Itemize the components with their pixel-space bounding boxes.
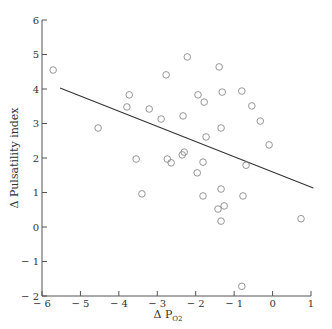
x-tick-label: − 2 <box>187 298 205 309</box>
y-tick-label: − 1 <box>21 256 39 267</box>
x-tick-label: − 6 <box>33 298 51 309</box>
data-point <box>221 203 228 210</box>
data-points <box>50 54 304 290</box>
data-point <box>239 283 246 290</box>
y-axis-title: Δ Pulsatility index <box>8 107 21 209</box>
x-axis: − 6− 5− 4− 3− 2− 101 <box>33 291 314 309</box>
x-tick-label: 0 <box>269 298 275 309</box>
data-point <box>139 191 146 198</box>
data-point <box>215 206 222 213</box>
data-point <box>219 89 226 96</box>
data-point <box>163 72 170 79</box>
data-point <box>133 156 140 163</box>
y-tick-label: 3 <box>33 118 39 129</box>
data-point <box>50 67 57 74</box>
scatter-chart: − 2− 10123456 − 6− 5− 4− 3− 2− 101 Δ Pul… <box>0 0 332 329</box>
data-point <box>164 156 171 163</box>
regression-line-segment <box>60 88 313 188</box>
data-point <box>158 116 165 123</box>
data-point <box>200 159 207 166</box>
x-tick-label: − 4 <box>110 298 128 309</box>
data-point <box>168 160 175 167</box>
x-tick-label: − 1 <box>225 298 243 309</box>
data-point <box>124 104 131 111</box>
y-tick-label: 1 <box>33 187 39 198</box>
data-point <box>146 106 153 113</box>
x-tick-label: − 5 <box>71 298 89 309</box>
data-point <box>218 186 225 193</box>
data-point <box>126 92 133 99</box>
y-tick-label: 2 <box>33 153 39 164</box>
data-point <box>266 142 273 149</box>
data-point <box>240 193 247 200</box>
y-tick-label: 0 <box>33 222 39 233</box>
data-point <box>195 92 202 99</box>
regression-line <box>60 88 313 188</box>
data-point <box>184 54 191 61</box>
data-point <box>239 88 246 95</box>
x-axis-title-subscript: O2 <box>172 315 182 323</box>
x-tick-label: 1 <box>308 298 314 309</box>
y-tick-label: 5 <box>33 49 39 60</box>
data-point <box>218 218 225 225</box>
data-point <box>249 103 256 110</box>
data-point <box>194 170 201 177</box>
data-point <box>216 64 223 71</box>
data-point <box>243 162 250 169</box>
data-point <box>180 113 187 120</box>
x-axis-title-main: Δ P <box>153 308 172 321</box>
y-tick-label: 4 <box>33 84 39 95</box>
data-point <box>200 193 207 200</box>
data-point <box>203 134 210 141</box>
x-axis-title: Δ PO2 <box>153 308 182 323</box>
data-point <box>257 118 264 125</box>
y-axis: − 2− 10123456 <box>21 15 47 302</box>
data-point <box>95 125 102 132</box>
data-point <box>218 125 225 132</box>
y-tick-label: 6 <box>33 15 39 26</box>
data-point <box>298 215 305 222</box>
data-point <box>201 99 208 106</box>
